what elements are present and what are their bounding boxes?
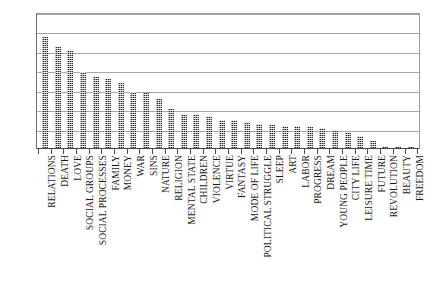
bar-slot xyxy=(102,14,115,149)
bar-slot xyxy=(266,14,279,149)
x-axis-label-slot: LOVE xyxy=(63,155,76,301)
x-axis-tick-slot xyxy=(253,149,266,154)
x-axis-tick-slot xyxy=(228,149,241,154)
bar xyxy=(67,50,73,149)
bar xyxy=(256,124,262,149)
x-axis-tick-mark xyxy=(417,149,418,154)
bar-slot xyxy=(165,14,178,149)
bar-chart: 020406080100120140 RELATIONSDEATHLOVESOC… xyxy=(0,0,434,301)
bar xyxy=(244,122,250,149)
x-axis-tick-slot xyxy=(380,149,393,154)
x-axis-label-slot: RELATIONS xyxy=(38,155,51,301)
x-axis-tick-mark xyxy=(152,149,153,154)
x-axis-label-slot: SOCIAL PROCESSES xyxy=(89,155,102,301)
bar-slot xyxy=(152,14,165,149)
x-axis-tick-mark xyxy=(266,149,267,154)
x-axis-tick-slot xyxy=(355,149,368,154)
bar-slot xyxy=(392,14,405,149)
bar xyxy=(294,126,300,149)
x-axis-tick-mark xyxy=(317,149,318,154)
x-axis-label-slot: SOCIAL GROUPS xyxy=(76,155,89,301)
x-axis-label-slot: DEATH xyxy=(51,155,64,301)
x-axis-tick-slot xyxy=(139,149,152,154)
bar xyxy=(307,127,313,149)
x-axis-label-slot: LABOR xyxy=(291,155,304,301)
bar-slot xyxy=(341,14,354,149)
x-axis-label-slot: REVOLUTION xyxy=(380,155,393,301)
x-axis-label-slot: WAR xyxy=(127,155,140,301)
bar xyxy=(130,92,136,149)
x-axis-label-slot: CHILDREN xyxy=(190,155,203,301)
bar-slot xyxy=(404,14,417,149)
x-axis-tick-slot xyxy=(329,149,342,154)
x-axis-tick-slot xyxy=(152,149,165,154)
bar xyxy=(42,37,48,149)
bar-slot xyxy=(379,14,392,149)
x-axis-tick-mark xyxy=(405,149,406,154)
bar xyxy=(156,99,162,149)
x-axis-tick-mark xyxy=(51,149,52,154)
x-axis-tick-slot xyxy=(190,149,203,154)
x-axis-label-slot: VIRTUE xyxy=(215,155,228,301)
x-axis-label-slot: POLITICAL STRUGGLE xyxy=(253,155,266,301)
x-axis-tick-mark xyxy=(38,149,39,154)
bar-slot xyxy=(140,14,153,149)
bar-slot xyxy=(278,14,291,149)
x-axis-tick-slot xyxy=(367,149,380,154)
bar xyxy=(168,109,174,149)
x-axis-label-slot: SINS xyxy=(139,155,152,301)
bar xyxy=(55,47,61,149)
x-axis-tick-slot xyxy=(63,149,76,154)
bar-slot xyxy=(178,14,191,149)
x-axis-label-slot: MENTAL STATE xyxy=(177,155,190,301)
bar xyxy=(193,114,199,149)
x-axis-tick-mark xyxy=(114,149,115,154)
x-axis-label-slot: CITY LIFE xyxy=(342,155,355,301)
x-axis-tick-slot xyxy=(38,149,51,154)
bar-slot xyxy=(366,14,379,149)
x-axis-tick-slot xyxy=(215,149,228,154)
plot-wrapper: 020406080100120140 xyxy=(36,13,420,149)
bar-slot xyxy=(64,14,77,149)
x-axis-tick-mark xyxy=(215,149,216,154)
x-axis-tick-slot xyxy=(177,149,190,154)
x-axis-tick-slot xyxy=(279,149,292,154)
bar xyxy=(143,93,149,149)
bar-slot xyxy=(228,14,241,149)
bar xyxy=(118,83,124,149)
bar-slot xyxy=(77,14,90,149)
x-axis-label-slot: RELIGION xyxy=(165,155,178,301)
bar-slot xyxy=(303,14,316,149)
x-axis-tick-slot xyxy=(51,149,64,154)
x-axis-label-slot: PROGRESS xyxy=(304,155,317,301)
x-axis-tick-slot xyxy=(241,149,254,154)
x-axis-label-slot: MODE OF LIFE xyxy=(241,155,254,301)
x-axis-tick-slot xyxy=(405,149,418,154)
x-axis-tick-mark xyxy=(393,149,394,154)
x-axis-tick-slot xyxy=(101,149,114,154)
bar-slot xyxy=(52,14,65,149)
x-axis-label-slot: LEISURE TIME xyxy=(355,155,368,301)
x-axis-label-slot: BEAUTY xyxy=(393,155,406,301)
x-axis-tick-slot xyxy=(291,149,304,154)
x-axis-tick-slot xyxy=(317,149,330,154)
x-axis-label-slot: FAMILY xyxy=(101,155,114,301)
bar-slot xyxy=(329,14,342,149)
x-axis-tick-mark xyxy=(367,149,368,154)
bar xyxy=(93,77,99,149)
bar xyxy=(231,120,237,149)
x-axis-label-slot: SLEEP xyxy=(266,155,279,301)
bar xyxy=(332,130,338,149)
x-axis-label-slot: FREEDOM xyxy=(405,155,418,301)
x-axis-tick-slot xyxy=(393,149,406,154)
x-axis-tick-mark xyxy=(190,149,191,154)
x-axis-tick-mark xyxy=(127,149,128,154)
bar-slot xyxy=(354,14,367,149)
x-axis-tick-mark xyxy=(342,149,343,154)
bar xyxy=(181,114,187,149)
x-axis-label-slot: DREAM xyxy=(317,155,330,301)
bar xyxy=(219,120,225,149)
x-axis-tick-marks xyxy=(36,149,420,154)
bar-slot xyxy=(203,14,216,149)
bar xyxy=(206,116,212,149)
